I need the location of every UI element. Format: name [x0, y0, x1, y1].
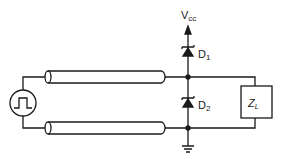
top-rail — [165, 77, 255, 86]
d2-label: D2 — [198, 99, 211, 113]
diode-d1-icon — [182, 45, 194, 56]
coax-cable-top — [45, 71, 165, 83]
ground-icon — [182, 146, 194, 152]
circuit-diagram: Vcc D1 D2 ZL — [0, 0, 284, 159]
load-impedance-box — [241, 86, 272, 118]
junction-top — [186, 75, 190, 79]
junction-bottom — [186, 126, 190, 130]
coax-cable-bottom — [45, 122, 165, 134]
d1-label: D1 — [198, 48, 211, 62]
diode-d2-icon — [182, 96, 194, 107]
bottom-rail — [165, 118, 255, 128]
vcc-arrow-icon — [185, 26, 191, 34]
vcc-label: Vcc — [181, 9, 196, 23]
pulse-source — [10, 77, 46, 128]
